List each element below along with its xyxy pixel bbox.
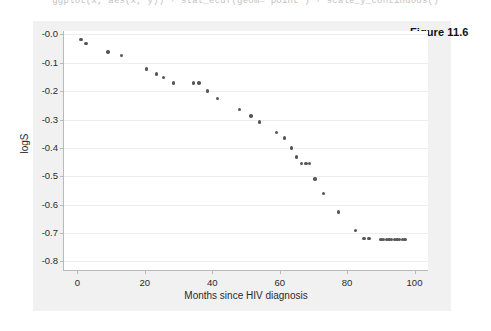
- x-tick-label: 0: [62, 277, 92, 288]
- x-tick-label: 40: [197, 277, 227, 288]
- data-point: [145, 67, 148, 70]
- data-point: [283, 136, 286, 139]
- y-tick-mark: [60, 91, 64, 92]
- gridline-y: [64, 34, 428, 35]
- y-tick-label: -0.8: [32, 255, 58, 266]
- y-tick-label: -0.1: [32, 57, 58, 68]
- gridline-y: [64, 233, 428, 234]
- y-tick-label: -0.2: [32, 85, 58, 96]
- y-tick-mark: [60, 34, 64, 35]
- data-point: [275, 131, 278, 134]
- x-tick-label: 100: [400, 277, 430, 288]
- y-tick-label: -0.5: [32, 170, 58, 181]
- y-tick-label: -0.6: [32, 199, 58, 210]
- data-point: [206, 89, 209, 92]
- y-tick-label: -0.0: [32, 28, 58, 39]
- y-tick-mark: [60, 261, 64, 262]
- x-tick-label: 20: [130, 277, 160, 288]
- y-tick-label: -0.7: [32, 227, 58, 238]
- x-tick-label: 60: [265, 277, 295, 288]
- data-point: [295, 155, 298, 158]
- gridline-y: [64, 205, 428, 206]
- x-tick-mark: [347, 270, 348, 274]
- data-point: [313, 177, 316, 180]
- gridline-y: [64, 63, 428, 64]
- y-tick-mark: [60, 120, 64, 121]
- y-tick-label: -0.3: [32, 114, 58, 125]
- data-point: [367, 237, 370, 240]
- data-point: [197, 81, 200, 84]
- data-point: [155, 72, 158, 75]
- data-point: [354, 229, 357, 232]
- scatter-chart: -0.0-0.1-0.2-0.3-0.4-0.5-0.6-0.7-0.8 020…: [0, 0, 491, 331]
- data-point: [403, 238, 406, 241]
- data-point: [162, 76, 165, 79]
- y-tick-label: -0.4: [32, 142, 58, 153]
- data-point: [106, 50, 109, 53]
- y-tick-mark: [60, 233, 64, 234]
- y-tick-mark: [60, 205, 64, 206]
- data-point: [249, 114, 252, 117]
- gridline-y: [64, 91, 428, 92]
- x-tick-mark: [415, 270, 416, 274]
- data-point: [258, 120, 261, 123]
- y-tick-mark: [60, 148, 64, 149]
- x-tick-mark: [280, 270, 281, 274]
- data-point: [290, 146, 293, 149]
- plot-area: [64, 31, 428, 270]
- x-axis-line: [63, 270, 428, 271]
- data-point: [362, 237, 365, 240]
- data-point: [300, 162, 303, 165]
- data-point: [337, 210, 340, 213]
- data-point: [322, 192, 325, 195]
- gridline-y: [64, 120, 428, 121]
- x-tick-mark: [212, 270, 213, 274]
- x-axis-title: Months since HIV diagnosis: [64, 290, 428, 301]
- y-tick-labels: -0.0-0.1-0.2-0.3-0.4-0.5-0.6-0.7-0.8: [26, 0, 58, 331]
- y-axis-line: [63, 31, 64, 270]
- data-point: [308, 162, 311, 165]
- data-point: [192, 81, 195, 84]
- data-point: [84, 42, 87, 45]
- data-point: [238, 108, 241, 111]
- gridline-y: [64, 261, 428, 262]
- data-point: [172, 81, 175, 84]
- data-point: [216, 97, 219, 100]
- y-axis-title: logS: [19, 114, 30, 174]
- gridline-y: [64, 176, 428, 177]
- x-tick-label: 80: [332, 277, 362, 288]
- x-tick-mark: [145, 270, 146, 274]
- y-tick-mark: [60, 176, 64, 177]
- gridline-y: [64, 148, 428, 149]
- data-point: [120, 54, 123, 57]
- x-tick-mark: [77, 270, 78, 274]
- data-point: [79, 38, 82, 41]
- y-tick-mark: [60, 63, 64, 64]
